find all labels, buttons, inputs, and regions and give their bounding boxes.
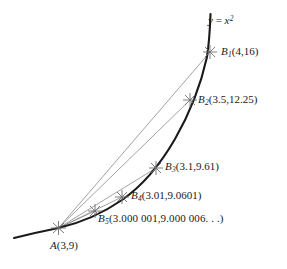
point-marker-a bbox=[51, 221, 66, 235]
point-label-a-letter: A bbox=[50, 239, 57, 251]
point-label-b5: B5(3.000 001,9.000 006. . .) bbox=[98, 213, 224, 226]
point-label-b3-coords: (3.1,9.61) bbox=[176, 160, 219, 172]
point-marker-b3 bbox=[149, 161, 163, 175]
point-label-b4-letter: B bbox=[131, 189, 138, 201]
curve-equation-equals: = bbox=[213, 14, 225, 26]
curve-equation-base: x bbox=[225, 14, 230, 26]
point-label-b4: B4(3.01,9.0601) bbox=[131, 190, 201, 203]
secant-line-a-b5 bbox=[59, 211, 96, 228]
point-marker-b2 bbox=[183, 93, 197, 107]
point-marker-b4 bbox=[115, 190, 129, 204]
secant-tangent-diagram: y = x2 B1(4,16) B2(3.5,12.25) B3(3.1,9.6… bbox=[0, 0, 287, 269]
point-label-b2-coords: (3.5,12.25) bbox=[209, 93, 258, 105]
point-label-b2: B2(3.5,12.25) bbox=[198, 94, 257, 107]
parabola-curve bbox=[14, 14, 211, 238]
point-label-b1-coords: (4,16) bbox=[232, 45, 259, 57]
point-label-a: A(3,9) bbox=[50, 240, 78, 251]
point-label-b3: B3(3.1,9.61) bbox=[165, 161, 219, 174]
curve-equation-label: y = x2 bbox=[208, 15, 234, 26]
point-label-b1: B1(4,16) bbox=[221, 46, 258, 59]
point-label-b3-letter: B bbox=[165, 160, 172, 172]
point-label-b2-letter: B bbox=[198, 93, 205, 105]
point-label-b5-coords: (3.000 001,9.000 006. . .) bbox=[109, 212, 223, 224]
point-label-b4-coords: (3.01,9.0601) bbox=[142, 189, 202, 201]
point-marker-b1 bbox=[203, 45, 217, 59]
curve-equation-exponent: 2 bbox=[230, 14, 234, 23]
diagram-canvas bbox=[0, 0, 287, 269]
point-label-b5-letter: B bbox=[98, 212, 105, 224]
point-label-a-coords: (3,9) bbox=[57, 239, 78, 251]
point-label-b1-letter: B bbox=[221, 45, 228, 57]
